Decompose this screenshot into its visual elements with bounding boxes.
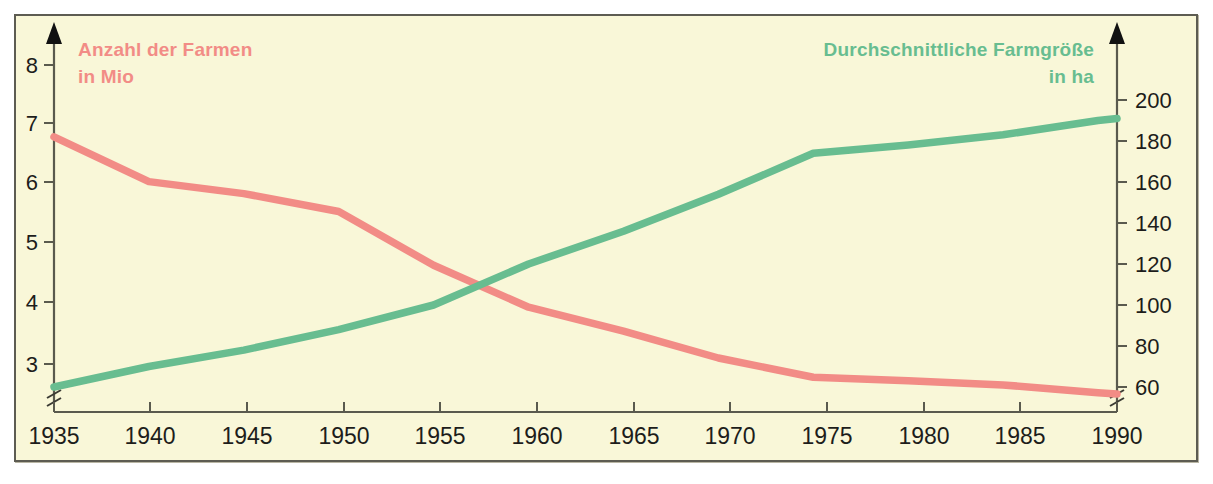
left-axis-title-line1: Anzahl der Farmen	[78, 39, 252, 60]
right-tick-label-140: 140	[1135, 211, 1172, 236]
right-tick-label-60: 60	[1135, 375, 1159, 400]
x-tick-label-1985: 1985	[994, 423, 1045, 449]
chart-frame: 8 7 6 5 4 3 200 180 160	[14, 14, 1198, 462]
right-tick-label-200: 200	[1135, 88, 1172, 113]
right-axis-arrow-icon	[1109, 22, 1125, 44]
left-axis-title: Anzahl der Farmen in Mio	[78, 39, 252, 87]
left-tick-label-3: 3	[26, 352, 38, 377]
right-tick-label-80: 80	[1135, 334, 1159, 359]
left-tick-label-8: 8	[26, 53, 38, 78]
x-axis: 1935 1940 1945 1950 1955 1960 1965 1970 …	[28, 402, 1142, 449]
left-tick-label-6: 6	[26, 170, 38, 195]
x-tick-label-1955: 1955	[414, 423, 465, 449]
right-tick-label-100: 100	[1135, 293, 1172, 318]
x-tick-label-1975: 1975	[801, 423, 852, 449]
x-tick-label-1935: 1935	[28, 423, 79, 449]
x-tick-label-1950: 1950	[318, 423, 369, 449]
left-axis-title-line2: in Mio	[78, 66, 134, 87]
x-tick-label-1945: 1945	[221, 423, 272, 449]
x-tick-label-1940: 1940	[124, 423, 175, 449]
x-tick-label-1970: 1970	[704, 423, 755, 449]
x-tick-label-1965: 1965	[608, 423, 659, 449]
x-tick-label-1980: 1980	[898, 423, 949, 449]
right-axis-title-line2: in ha	[1049, 66, 1095, 87]
left-tick-label-4: 4	[26, 290, 38, 315]
x-tick-label-1960: 1960	[511, 423, 562, 449]
right-tick-label-180: 180	[1135, 129, 1172, 154]
series-line-durchschnittliche-farmgroesse	[54, 119, 1117, 388]
right-axis-title-line1: Durchschnittliche Farmgröße	[824, 39, 1094, 60]
right-axis-title: Durchschnittliche Farmgröße in ha	[824, 39, 1095, 87]
right-y-axis: 200 180 160 140 120 100 80 60	[1109, 22, 1172, 406]
left-axis-arrow-icon	[46, 22, 62, 44]
chart-plot-area: 8 7 6 5 4 3 200 180 160	[16, 16, 1196, 460]
right-tick-label-120: 120	[1135, 252, 1172, 277]
left-tick-label-7: 7	[26, 111, 38, 136]
x-tick-label-1990: 1990	[1091, 423, 1142, 449]
left-y-axis: 8 7 6 5 4 3	[26, 22, 62, 406]
left-tick-label-5: 5	[26, 230, 38, 255]
right-tick-label-160: 160	[1135, 170, 1172, 195]
